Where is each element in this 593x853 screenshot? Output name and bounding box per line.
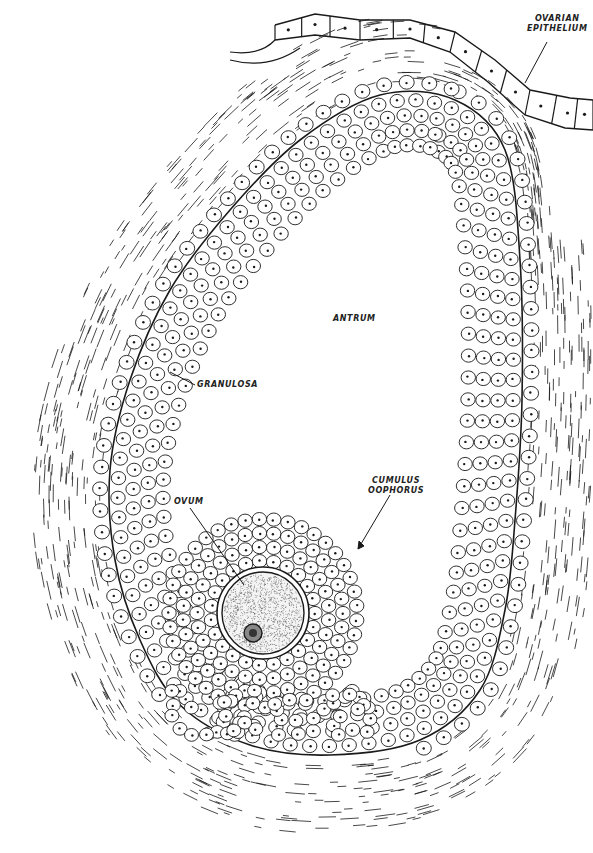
cytoplasm-stipple <box>296 628 297 629</box>
cytoplasm-stipple <box>279 593 280 594</box>
cytoplasm-stipple <box>229 629 230 630</box>
cytoplasm-stipple <box>295 622 296 623</box>
granulosa-cell-nucleus <box>250 220 252 222</box>
cytoplasm-stipple <box>238 603 239 604</box>
theca-fiber <box>90 410 93 421</box>
cytoplasm-stipple <box>276 589 277 590</box>
granulosa-cell-nucleus <box>450 141 452 143</box>
granulosa-cell-nucleus <box>200 709 202 711</box>
cytoplasm-stipple <box>244 642 245 643</box>
cytoplasm-stipple <box>240 636 241 637</box>
cytoplasm-stipple <box>272 644 273 645</box>
cytoplasm-stipple <box>235 614 236 615</box>
cumulus-cell-nucleus <box>194 677 196 679</box>
cytoplasm-stipple <box>294 626 295 627</box>
cytoplasm-stipple <box>257 595 258 596</box>
granulosa-cell-nucleus <box>472 643 474 645</box>
cytoplasm-stipple <box>250 644 251 645</box>
cytoplasm-stipple <box>277 604 278 605</box>
theca-cell-nucleus <box>521 540 523 542</box>
cytoplasm-stipple <box>255 581 256 582</box>
granulosa-cell-nucleus <box>464 441 466 443</box>
cytoplasm-stipple <box>301 617 302 618</box>
cytoplasm-stipple <box>266 646 267 647</box>
cytoplasm-stipple <box>249 642 250 643</box>
theca-cell-nucleus <box>526 478 528 480</box>
theca-fiber <box>47 444 48 452</box>
epithelial-nucleus <box>343 27 346 30</box>
cytoplasm-stipple <box>286 619 287 620</box>
cytoplasm-stipple <box>231 612 232 613</box>
theca-fiber <box>536 212 537 221</box>
cytoplasm-stipple <box>227 606 228 607</box>
cytoplasm-stipple <box>255 647 256 648</box>
cytoplasm-stipple <box>248 617 249 618</box>
granulosa-cell-nucleus <box>484 657 486 659</box>
cytoplasm-stipple <box>264 633 265 634</box>
theca-fiber <box>433 771 442 775</box>
granulosa-cell <box>246 259 260 272</box>
cytoplasm-stipple <box>293 619 294 620</box>
cumulus-cell-nucleus <box>206 669 208 671</box>
cytoplasm-stipple <box>255 605 256 606</box>
cytoplasm-stipple <box>262 626 263 627</box>
cytoplasm-stipple <box>289 638 290 639</box>
ovum-nucleolus <box>249 629 257 637</box>
cytoplasm-stipple <box>281 589 282 590</box>
granulosa-cell-nucleus <box>453 704 455 706</box>
cytoplasm-stipple <box>255 609 256 610</box>
theca-fiber <box>69 342 74 357</box>
cytoplasm-stipple <box>279 620 280 621</box>
cytoplasm-stipple <box>287 638 288 639</box>
theca-fiber <box>281 818 297 820</box>
theca-cell-nucleus <box>478 101 480 103</box>
cytoplasm-stipple <box>277 603 278 604</box>
granulosa-cell <box>195 252 209 265</box>
granulosa-cell-nucleus <box>273 218 275 220</box>
cytoplasm-stipple <box>246 612 247 613</box>
theca-fiber <box>53 544 55 561</box>
granulosa-cell-nucleus <box>327 131 329 133</box>
granulosa-cell-nucleus <box>492 502 494 504</box>
cytoplasm-stipple <box>288 627 289 628</box>
theca-cell-nucleus <box>508 136 510 138</box>
cytoplasm-stipple <box>284 593 285 594</box>
cytoplasm-stipple <box>279 621 280 622</box>
cumulus-cell-nucleus <box>342 613 344 615</box>
cytoplasm-stipple <box>252 612 253 613</box>
cytoplasm-stipple <box>236 628 237 629</box>
cytoplasm-stipple <box>284 639 285 640</box>
theca-cell-nucleus <box>531 371 533 373</box>
cytoplasm-stipple <box>245 580 246 581</box>
cytoplasm-stipple <box>242 632 243 633</box>
cytoplasm-stipple <box>235 605 236 606</box>
cytoplasm-stipple <box>274 583 275 584</box>
cytoplasm-stipple <box>286 625 287 626</box>
cumulus-stalk-cell-nucleus <box>171 714 173 716</box>
cytoplasm-stipple <box>295 618 296 619</box>
cytoplasm-stipple <box>300 606 301 607</box>
theca-cell-nucleus <box>287 136 289 138</box>
theca-fiber <box>145 281 150 289</box>
granulosa-cell-nucleus <box>133 488 135 490</box>
theca-fiber <box>59 376 62 387</box>
granulosa-cell-nucleus <box>133 527 135 529</box>
cytoplasm-stipple <box>260 592 261 593</box>
granulosa-cell-nucleus <box>323 699 325 701</box>
theca-fiber <box>492 754 505 766</box>
theca-fiber <box>567 596 570 612</box>
cytoplasm-stipple <box>273 600 274 601</box>
cytoplasm-stipple <box>293 604 294 605</box>
cytoplasm-stipple <box>291 597 292 598</box>
cytoplasm-stipple <box>245 592 246 593</box>
cytoplasm-stipple <box>274 632 275 633</box>
cytoplasm-stipple <box>276 581 277 582</box>
cumulus-stalk-cell-nucleus <box>332 702 334 704</box>
cytoplasm-stipple <box>299 620 300 621</box>
theca-fiber <box>53 417 55 427</box>
cytoplasm-stipple <box>232 620 233 621</box>
cytoplasm-stipple <box>258 576 259 577</box>
theca-fiber <box>354 788 363 789</box>
cytoplasm-stipple <box>244 639 245 640</box>
theca-fiber <box>550 237 551 252</box>
